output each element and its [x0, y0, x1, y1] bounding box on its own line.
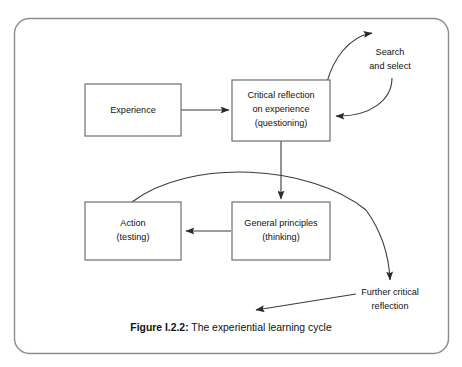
- figure-caption: Figure I.2.2: The experiential learning …: [130, 322, 332, 333]
- figure-container: Experience Critical reflection on experi…: [0, 0, 462, 367]
- node-experience-label: Experience: [110, 105, 156, 115]
- connector-further-reflection-to-cycle: [256, 294, 356, 310]
- label-search-and-select: Search and select: [369, 47, 411, 71]
- node-critical-reflection-line-2: on experience: [252, 104, 309, 114]
- label-further-critical-reflection: Further critical reflection: [361, 287, 419, 311]
- node-action[interactable]: Action (testing): [85, 202, 181, 260]
- connector-search-to-reflection: [336, 78, 392, 116]
- label-search-and-select-line-2: and select: [369, 61, 411, 71]
- node-experience[interactable]: Experience: [85, 84, 181, 136]
- node-critical-reflection-line-1: Critical reflection: [247, 90, 314, 100]
- node-action-line-1: Action: [120, 218, 145, 228]
- label-further-critical-reflection-line-2: reflection: [372, 301, 409, 311]
- figure-caption-label: Figure I.2.2:: [130, 322, 188, 333]
- label-search-and-select-line-1: Search: [376, 47, 405, 57]
- node-action-line-2: (testing): [117, 232, 150, 242]
- node-critical-reflection[interactable]: Critical reflection on experience (quest…: [232, 80, 330, 141]
- node-general-principles-line-2: (thinking): [262, 232, 299, 242]
- label-further-critical-reflection-line-1: Further critical: [361, 287, 419, 297]
- node-general-principles-line-1: General principles: [244, 218, 318, 228]
- node-action-box[interactable]: [85, 202, 181, 260]
- connector-reflection-to-search: [327, 33, 372, 82]
- node-general-principles[interactable]: General principles (thinking): [232, 202, 330, 260]
- figure-caption-text: The experiential learning cycle: [191, 322, 332, 333]
- node-critical-reflection-line-3: (questioning): [255, 118, 308, 128]
- experiential-learning-cycle-diagram: Experience Critical reflection on experi…: [0, 0, 462, 367]
- node-general-principles-box[interactable]: [232, 202, 330, 260]
